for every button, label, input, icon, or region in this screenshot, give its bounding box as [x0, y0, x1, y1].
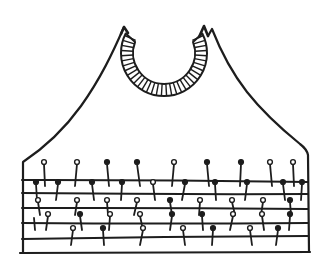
pin-stem — [289, 216, 290, 230]
pin-head-open — [230, 198, 235, 203]
pin-stem — [109, 216, 110, 230]
pin-head-open — [172, 160, 177, 165]
pin-head-filled — [168, 198, 173, 203]
pin-stem — [75, 164, 77, 186]
pin-head-filled — [205, 160, 210, 165]
pin — [245, 180, 250, 200]
pin-head-filled — [101, 226, 106, 231]
pin — [281, 180, 286, 200]
pin-head-open — [231, 212, 236, 217]
pin-head-open — [75, 198, 80, 203]
band-line — [22, 236, 308, 239]
pin — [300, 180, 305, 200]
pin — [181, 226, 186, 245]
pin-head-filled — [239, 160, 244, 165]
pin-stem — [80, 216, 82, 230]
pin — [211, 226, 216, 245]
pin — [75, 160, 80, 186]
pin-stem — [183, 230, 185, 245]
pin-head-open — [181, 226, 186, 231]
pin-head-filled — [300, 180, 305, 185]
pin-head-filled — [276, 226, 281, 231]
pin-head-filled — [281, 180, 286, 185]
pin-stem — [170, 216, 172, 230]
pin-head-filled — [105, 160, 110, 165]
pin-stem — [75, 202, 77, 215]
pin-head-filled — [183, 180, 188, 185]
pin-head-filled — [34, 180, 39, 185]
pin-stem — [240, 164, 241, 186]
pin — [42, 160, 47, 186]
pin-stem — [107, 164, 109, 186]
hatch-line — [121, 55, 133, 56]
pin-head-filled — [90, 180, 95, 185]
pin — [248, 226, 253, 245]
pin-head-open — [248, 226, 253, 231]
pin-stem — [153, 184, 155, 200]
pin-head-open — [268, 160, 273, 165]
band-lines — [22, 180, 308, 239]
hatch-line — [195, 55, 207, 56]
pin-row-2 — [34, 180, 305, 200]
pin-head-filled — [213, 180, 218, 185]
pin-head-open — [135, 198, 140, 203]
pin — [200, 212, 205, 230]
pin-head-open — [198, 198, 203, 203]
pin-head-open — [36, 198, 41, 203]
pin — [105, 160, 110, 186]
pin-head-filled — [288, 198, 293, 203]
hatch-line — [161, 84, 162, 96]
pin — [205, 160, 210, 186]
band-line — [22, 180, 308, 182]
pin — [288, 212, 293, 230]
pin-row-3 — [36, 198, 293, 215]
pin — [140, 226, 145, 245]
pin — [182, 180, 187, 200]
pin-head-open — [46, 212, 51, 217]
pin-row-5 — [71, 226, 281, 245]
outline-stroke — [208, 29, 309, 252]
pin — [78, 212, 83, 230]
band-line — [22, 193, 308, 194]
pin — [36, 198, 41, 215]
pin — [230, 212, 235, 230]
pin-stem — [71, 230, 73, 245]
pin-stem — [202, 216, 203, 230]
outline-stroke — [20, 252, 310, 253]
pin-stem — [182, 184, 185, 200]
hatch-line — [121, 51, 133, 52]
pin-head-filled — [120, 180, 125, 185]
neckband-outline — [121, 34, 207, 97]
outline-stroke — [23, 27, 124, 253]
pin-head-filled — [245, 180, 250, 185]
pin-head-filled — [135, 160, 140, 165]
pin-stem — [270, 164, 272, 186]
pin — [260, 212, 265, 230]
pin-stem — [137, 164, 140, 186]
pin-stem — [215, 184, 216, 200]
pin-stem — [301, 184, 302, 200]
pin-head-open — [291, 160, 296, 165]
pin-stem — [121, 184, 122, 200]
pin-head-filled — [288, 212, 293, 217]
pin-rows — [34, 160, 305, 245]
pin-head-open — [138, 212, 143, 217]
hatch-line — [195, 51, 207, 52]
pin-stem — [207, 164, 209, 186]
pin — [120, 180, 125, 200]
band-line — [22, 208, 308, 209]
pin — [151, 180, 156, 200]
pin-head-filled — [211, 226, 216, 231]
pin — [135, 160, 140, 186]
pin — [90, 180, 95, 200]
pin-stem — [212, 230, 213, 245]
pin-stem — [293, 164, 294, 186]
pin-head-open — [151, 180, 156, 185]
pin — [108, 212, 113, 230]
pin-head-open — [141, 226, 146, 231]
pin-head-open — [108, 212, 113, 217]
pin-stem — [56, 184, 58, 200]
band-line — [22, 223, 308, 224]
sketch-figure — [0, 0, 330, 276]
pin-head-open — [105, 198, 110, 203]
